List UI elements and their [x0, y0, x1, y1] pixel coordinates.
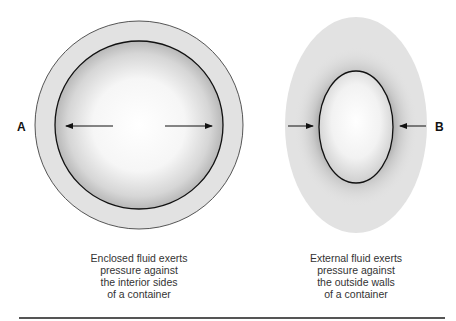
- caption-a-line: the interior sides: [59, 276, 219, 288]
- caption-a-line: Enclosed fluid exerts: [59, 252, 219, 264]
- caption-b-line: pressure against: [276, 264, 436, 276]
- container-b: [319, 71, 393, 183]
- label-b: B: [435, 120, 444, 134]
- caption-a-line: pressure against: [59, 264, 219, 276]
- bottom-divider: [19, 317, 445, 319]
- panel-a: A: [17, 21, 243, 229]
- label-a: A: [17, 120, 26, 134]
- caption-a: Enclosed fluid exerts pressure against t…: [59, 252, 219, 300]
- caption-b-line: External fluid exerts: [276, 252, 436, 264]
- caption-b-line: the outside walls: [276, 276, 436, 288]
- caption-a-line: of a container: [59, 288, 219, 300]
- enclosed-fluid: [55, 41, 223, 209]
- caption-b: External fluid exerts pressure against t…: [276, 252, 436, 300]
- caption-b-line: of a container: [276, 288, 436, 300]
- panel-b: B: [285, 17, 444, 233]
